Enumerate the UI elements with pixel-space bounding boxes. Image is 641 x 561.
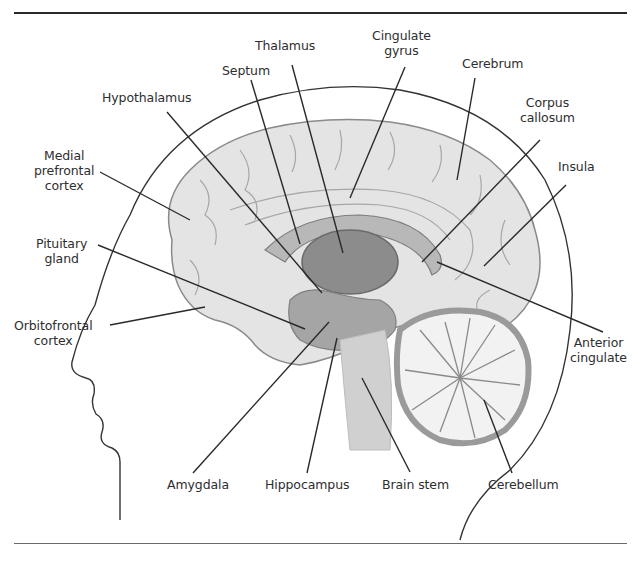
label-cingulate-gyrus: Cingulate gyrus bbox=[372, 28, 431, 58]
brain-stem-shape bbox=[340, 330, 392, 450]
label-insula: Insula bbox=[558, 159, 595, 174]
label-orbitofrontal-cortex: Orbitofrontal cortex bbox=[14, 318, 93, 348]
label-pituitary-gland: Pituitary gland bbox=[36, 236, 87, 266]
label-medial-prefrontal-cortex: Medial prefrontal cortex bbox=[34, 148, 94, 193]
label-hippocampus: Hippocampus bbox=[265, 477, 349, 492]
label-brain-stem: Brain stem bbox=[382, 477, 449, 492]
label-corpus-callosum: Corpus callosum bbox=[520, 95, 575, 125]
label-cerebellum: Cerebellum bbox=[488, 477, 559, 492]
label-amygdala: Amygdala bbox=[167, 477, 229, 492]
label-cerebrum: Cerebrum bbox=[462, 56, 523, 71]
label-septum: Septum bbox=[222, 63, 270, 78]
label-hypothalamus: Hypothalamus bbox=[102, 90, 191, 105]
label-anterior-cingulate: Anterior cingulate bbox=[570, 335, 627, 365]
thalamus-shape bbox=[302, 230, 398, 294]
label-thalamus: Thalamus bbox=[255, 38, 315, 53]
